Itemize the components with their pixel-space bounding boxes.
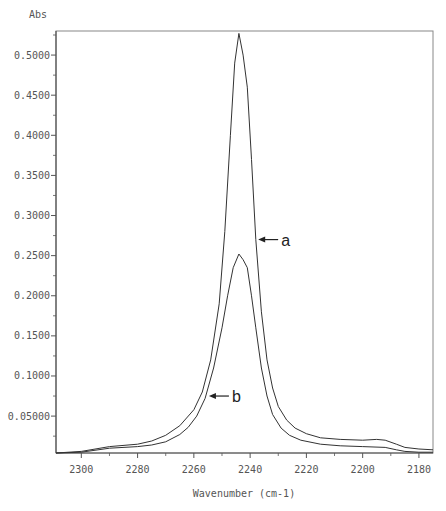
series-layer — [56, 33, 433, 453]
plot-frame — [56, 31, 433, 453]
y-tick-label: 0.2000 — [14, 290, 50, 301]
y-axis-title: Abs — [29, 9, 47, 20]
plot-border — [56, 31, 433, 453]
y-tick-label: 0.4500 — [14, 90, 50, 101]
arrowhead-icon — [258, 237, 265, 243]
y-tick-label: 0.1000 — [14, 370, 50, 381]
annotation-label-b: b — [232, 388, 241, 405]
y-tick-label: 0.2500 — [14, 250, 50, 261]
y-tick-label: 0.3500 — [14, 170, 50, 181]
y-axis: 0.050000.10000.15000.20000.25000.30000.3… — [8, 35, 56, 436]
x-tick-label: 2260 — [182, 464, 206, 475]
y-tick-label: 0.3000 — [14, 210, 50, 221]
y-tick-label: 0.05000 — [8, 411, 50, 422]
y-tick-label: 0.5000 — [14, 50, 50, 61]
x-tick-label: 2300 — [69, 464, 93, 475]
y-tick-label: 0.4000 — [14, 130, 50, 141]
x-tick-label: 2280 — [126, 464, 150, 475]
spectrum-line-a — [56, 33, 433, 453]
x-axis: 2300228022602240222022002180 — [69, 453, 431, 475]
annotation-label-a: a — [281, 232, 290, 249]
spectrum-line-b — [56, 254, 433, 453]
spectrum-chart: Abs 0.050000.10000.15000.20000.25000.300… — [0, 0, 446, 511]
annotation-layer: ab — [209, 232, 290, 405]
x-tick-label: 2180 — [407, 464, 431, 475]
y-tick-label: 0.1500 — [14, 330, 50, 341]
x-axis-title: Wavenumber (cm-1) — [193, 488, 295, 499]
x-tick-label: 2220 — [294, 464, 318, 475]
arrowhead-icon — [209, 393, 216, 399]
x-tick-label: 2240 — [238, 464, 262, 475]
x-tick-label: 2200 — [351, 464, 375, 475]
